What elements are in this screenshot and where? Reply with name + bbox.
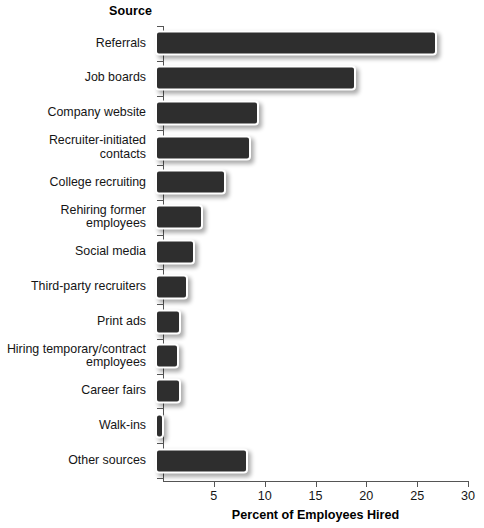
bar-cell [155,304,484,339]
category-label: Career fairs [0,384,155,398]
x-axis-tick-label: 10 [245,489,285,503]
bar-cell [155,200,484,235]
bar [155,205,203,230]
bar-row: Company website [0,96,484,131]
bar-row: Career fairs [0,374,484,409]
bar [155,274,188,299]
category-label: Rehiring former employees [0,204,155,231]
bar-row: Job boards [0,61,484,96]
y-axis-tick [157,408,164,409]
bar [155,344,179,369]
bar-cell [155,96,484,131]
bar [155,309,181,334]
category-label: Other sources [0,454,155,468]
bar-cell [155,374,484,409]
bar [155,100,259,125]
category-label: Print ads [0,315,155,329]
x-axis-tick-label: 25 [397,489,437,503]
bar-chart: Source ReferralsJob boardsCompany websit… [0,0,484,528]
y-axis-tick [157,339,164,340]
y-axis-tick [157,478,164,479]
category-label: Walk-ins [0,419,155,433]
x-axis-tick [214,481,215,487]
bar-row: Other sources [0,443,484,478]
category-label: Referrals [0,37,155,51]
bar [155,413,164,438]
bar-row: College recruiting [0,165,484,200]
y-axis-tick [157,443,164,444]
bar-cell [155,269,484,304]
y-axis-tick [157,96,164,97]
y-axis-tick [157,200,164,201]
bar-row: Walk-ins [0,408,484,443]
bar-cell [155,61,484,96]
x-axis-tick-label: 15 [296,489,336,503]
bar-cell [155,443,484,478]
bar [155,170,226,195]
bar-cell [155,26,484,61]
bar-row: Social media [0,235,484,270]
y-axis-tick [157,26,164,27]
bar-row: Rehiring former employees [0,200,484,235]
x-axis-tick-label: 5 [194,489,234,503]
y-axis-tick [157,165,164,166]
x-axis-tick [366,481,367,487]
category-label: Third-party recruiters [0,280,155,294]
bar-row: Referrals [0,26,484,61]
bar-cell [155,130,484,165]
category-label: Job boards [0,71,155,85]
bar [155,31,437,56]
bar [155,448,248,473]
x-axis-tick [265,481,266,487]
bar [155,379,181,404]
category-label: Recruiter-initiated contacts [0,134,155,161]
bar [155,66,356,91]
x-axis-tick [468,481,469,487]
bar-rows: ReferralsJob boardsCompany websiteRecrui… [0,26,484,478]
bar [155,239,195,264]
y-axis-tick [157,130,164,131]
category-label: Hiring temporary/contract employees [0,343,155,370]
bar-row: Third-party recruiters [0,269,484,304]
bar-cell [155,408,484,443]
y-axis-tick [157,304,164,305]
x-axis-tick [417,481,418,487]
category-label: Company website [0,106,155,120]
bar [155,135,251,160]
bar-cell [155,339,484,374]
x-axis-tick-label: 30 [448,489,484,503]
y-axis-tick [157,374,164,375]
x-axis-tick-label: 20 [346,489,386,503]
x-axis-tick [316,481,317,487]
y-axis-tick [157,269,164,270]
bar-cell [155,165,484,200]
category-label: College recruiting [0,176,155,190]
bar-row: Print ads [0,304,484,339]
y-axis-tick [157,61,164,62]
x-axis-title: Percent of Employees Hired [163,508,468,522]
y-axis-tick [157,235,164,236]
y-axis-title: Source [0,4,152,18]
bar-row: Recruiter-initiated contacts [0,130,484,165]
bar-row: Hiring temporary/contract employees [0,339,484,374]
bar-cell [155,235,484,270]
category-label: Social media [0,245,155,259]
